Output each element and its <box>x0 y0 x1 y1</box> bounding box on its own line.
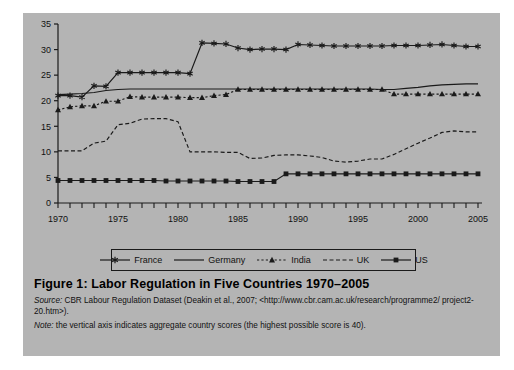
data-series-group <box>55 40 481 184</box>
marker-triangle <box>103 98 109 103</box>
marker-square <box>236 179 241 184</box>
marker-square <box>200 179 205 184</box>
x-tick-label: 1975 <box>108 214 128 224</box>
legend-label: Germany <box>208 256 245 265</box>
legend-entry-uk: UK <box>322 254 370 266</box>
legend-swatch-triangle-icon <box>256 254 288 266</box>
line-chart: 05101520253035 1970197519801985199019952… <box>23 13 500 253</box>
marker-square <box>92 178 97 183</box>
marker-square <box>344 171 349 176</box>
legend-entry-india: India <box>256 254 311 266</box>
x-tick-label: 1980 <box>168 214 188 224</box>
chart-plot-area: 05101520253035 1970197519801985199019952… <box>23 13 500 253</box>
marker-square <box>308 171 313 176</box>
marker-square <box>332 171 337 176</box>
y-tick-label: 30 <box>41 45 51 55</box>
marker-square <box>104 178 109 183</box>
figure-panel: 05101520253035 1970197519801985199019952… <box>23 13 500 356</box>
source-label: Source: <box>34 296 62 305</box>
marker-square <box>212 179 217 184</box>
y-tick-label: 5 <box>46 173 51 183</box>
y-tick-label: 0 <box>46 198 51 208</box>
legend-swatch-asterisk-icon <box>99 254 131 266</box>
marker-triangle <box>91 103 97 108</box>
marker-square <box>248 179 253 184</box>
legend-swatch-none <box>173 254 205 266</box>
marker-square <box>428 171 433 176</box>
marker-square <box>128 178 133 183</box>
y-axis: 05101520253035 <box>41 19 58 208</box>
marker-square <box>296 171 301 176</box>
marker-triangle <box>439 91 445 96</box>
note-line: Note: the vertical axis indicates aggreg… <box>34 321 496 332</box>
marker-square <box>440 171 445 176</box>
legend-swatch-none <box>322 254 354 266</box>
series-line <box>58 119 478 162</box>
y-tick-label: 10 <box>41 147 51 157</box>
legend-entry-france: France <box>99 254 162 266</box>
series-line <box>58 174 478 182</box>
y-tick-label: 35 <box>41 19 51 29</box>
marker-square <box>356 171 361 176</box>
marker-triangle <box>199 95 205 100</box>
legend-entry-germany: Germany <box>173 254 245 266</box>
y-tick-label: 20 <box>41 96 51 106</box>
marker-triangle <box>475 91 481 96</box>
marker-square <box>68 178 73 183</box>
marker-square <box>56 178 61 183</box>
marker-square <box>188 179 193 184</box>
legend-label: France <box>134 256 162 265</box>
y-tick-label: 25 <box>41 70 51 80</box>
marker-triangle <box>403 91 409 96</box>
chart-legend: FranceGermanyIndiaUKUS <box>111 249 416 271</box>
series-line <box>58 89 478 109</box>
y-tick-label: 15 <box>41 122 51 132</box>
marker-square <box>80 178 85 183</box>
marker-triangle <box>151 94 157 99</box>
square-icon <box>394 258 399 263</box>
source-text: CBR Labour Regulation Dataset (Deakin et… <box>34 296 474 316</box>
marker-square <box>452 171 457 176</box>
legend-swatch-square-icon <box>380 254 412 266</box>
x-tick-label: 1985 <box>228 214 248 224</box>
x-axis: 19701975198019851990199520002005 <box>48 203 488 224</box>
marker-triangle <box>163 94 169 99</box>
triangle-icon <box>269 257 275 263</box>
marker-square <box>164 179 169 184</box>
marker-square <box>392 171 397 176</box>
legend-entry-us: US <box>380 254 428 266</box>
marker-square <box>116 178 121 183</box>
figure-title: Figure 1: Labor Regulation in Five Count… <box>34 277 496 291</box>
x-tick-label: 1995 <box>348 214 368 224</box>
legend-label: US <box>415 256 428 265</box>
marker-square <box>320 171 325 176</box>
note-label: Note: <box>34 321 54 330</box>
marker-square <box>176 179 181 184</box>
marker-square <box>404 171 409 176</box>
marker-square <box>260 179 265 184</box>
legend-label: India <box>291 256 311 265</box>
marker-square <box>224 179 229 184</box>
x-tick-label: 1990 <box>288 214 308 224</box>
marker-square <box>152 178 157 183</box>
legend-label: UK <box>357 256 370 265</box>
series-germany <box>58 84 478 95</box>
series-india <box>55 86 481 112</box>
marker-square <box>272 179 277 184</box>
series-france <box>55 40 480 100</box>
x-tick-label: 2000 <box>408 214 428 224</box>
note-text: the vertical axis indicates aggregate co… <box>54 321 366 330</box>
marker-triangle <box>391 91 397 96</box>
series-line <box>58 84 478 95</box>
series-uk <box>58 119 478 162</box>
marker-square <box>140 178 145 183</box>
marker-square <box>464 171 469 176</box>
x-tick-label: 2005 <box>468 214 488 224</box>
source-line: Source: CBR Labour Regulation Dataset (D… <box>34 296 496 318</box>
marker-square <box>416 171 421 176</box>
caption-block: Figure 1: Labor Regulation in Five Count… <box>34 277 496 332</box>
series-us <box>56 171 481 183</box>
marker-square <box>284 171 289 176</box>
marker-square <box>380 171 385 176</box>
marker-square <box>368 171 373 176</box>
